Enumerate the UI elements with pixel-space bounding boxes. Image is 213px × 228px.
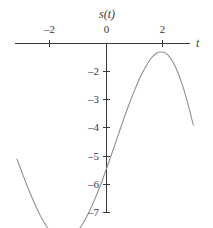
axes [15,43,190,213]
graph-figure: s(t) 0 –2 2 t –2 –3 –4 –5 –6 –7 [0,0,213,228]
x-tick-label-0: 0 [96,24,117,35]
y-axis-label: s(t) [91,8,123,20]
x-tick-label-2: 2 [152,24,173,35]
y-tick-label--7: –7 [70,207,99,218]
y-tick-label--6: –6 [70,179,99,190]
y-tick-label--3: –3 [70,94,99,105]
function-curve [17,52,193,228]
y-tick-label--4: –4 [70,122,99,133]
y-tick-label--2: –2 [70,66,99,77]
x-axis-label: t [196,37,208,49]
y-tick-label--5: –5 [70,151,99,162]
x-tick-label--2: –2 [39,24,60,35]
